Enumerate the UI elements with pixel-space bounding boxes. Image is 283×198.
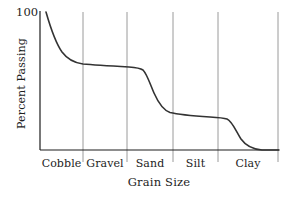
- percent-passing-curve: [46, 12, 279, 150]
- x-category-label-clay: Clay: [218, 157, 278, 170]
- y-axis-tick-label-100: 100: [16, 7, 38, 19]
- x-axis-title: Grain Size: [40, 177, 278, 189]
- category-divider-lines: [83, 12, 278, 162]
- grain-size-distribution-chart: 100 Percent Passing Cobble Gravel Sand S…: [0, 0, 283, 198]
- x-category-label-gravel: Gravel: [83, 157, 127, 170]
- x-category-label-sand: Sand: [127, 157, 173, 170]
- x-category-label-silt: Silt: [173, 157, 218, 170]
- chart-screenshot: 100 Percent Passing Cobble Gravel Sand S…: [0, 0, 283, 198]
- y-axis-title: Percent Passing: [16, 36, 27, 132]
- x-category-label-cobble: Cobble: [40, 157, 83, 170]
